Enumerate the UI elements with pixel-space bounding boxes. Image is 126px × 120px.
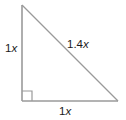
hypotenuse-line (22, 5, 118, 101)
hypotenuse-label: 1.4x (67, 39, 89, 51)
hypotenuse-label-number: 1.4 (67, 38, 83, 50)
vertical-leg-label-variable: x (11, 42, 17, 54)
horizontal-leg-label: 1x (59, 106, 71, 118)
vertical-leg-label: 1x (5, 43, 17, 55)
right-triangle-figure: 1x 1.4x 1x (0, 0, 126, 120)
triangle-drawing (0, 0, 126, 120)
hypotenuse-label-variable: x (83, 38, 89, 50)
horizontal-leg-label-variable: x (65, 105, 71, 117)
right-angle-marker-icon (22, 91, 32, 101)
